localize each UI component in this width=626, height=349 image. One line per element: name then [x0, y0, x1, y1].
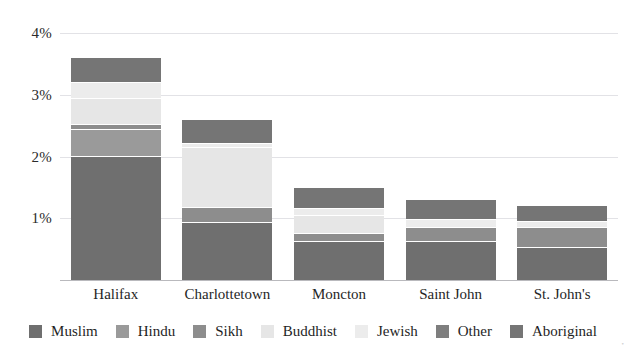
x-tick-label: Moncton [283, 287, 395, 302]
legend-swatch-icon [355, 325, 368, 338]
y-tick-label: 4% [6, 26, 52, 41]
bar-segment-buddhist[interactable] [71, 99, 161, 125]
bar-segment-muslim[interactable] [294, 242, 384, 280]
legend-swatch-icon [29, 325, 42, 338]
bar-segment-muslim[interactable] [71, 157, 161, 280]
corner-mark: • [622, 340, 624, 348]
legend-label: Muslim [51, 324, 98, 339]
bar-group[interactable] [182, 21, 272, 280]
bar-group[interactable] [294, 21, 384, 280]
stacked-bar[interactable] [182, 120, 272, 280]
bar-segment-buddhist[interactable] [294, 216, 384, 235]
x-axis-baseline [60, 280, 618, 281]
bar-segment-aboriginal[interactable] [71, 58, 161, 83]
legend-item-sikh[interactable]: Sikh [193, 324, 243, 339]
bar-segment-hindu[interactable] [71, 130, 161, 157]
bar-segment-sikh[interactable] [406, 228, 496, 242]
stacked-bar[interactable] [294, 188, 384, 281]
legend-item-hindu[interactable]: Hindu [116, 324, 176, 339]
bar-segment-muslim[interactable] [182, 223, 272, 280]
clipped-title [0, 0, 626, 5]
stacked-bar[interactable] [406, 200, 496, 280]
stacked-bar[interactable] [517, 206, 607, 280]
chart-legend: MuslimHinduSikhBuddhistJewishOtherAborig… [0, 313, 626, 349]
legend-label: Hindu [138, 324, 176, 339]
legend-swatch-icon [116, 325, 129, 338]
x-tick-label: Halifax [60, 287, 172, 302]
y-tick-label: 3% [6, 88, 52, 103]
legend-swatch-icon [261, 325, 274, 338]
x-tick-label: St. John's [506, 287, 618, 302]
x-tick-label: Saint John [395, 287, 507, 302]
stacked-bar-chart: 1%2%3%4% HalifaxCharlottetownMonctonSain… [0, 0, 626, 349]
bar-segment-jewish[interactable] [294, 209, 384, 216]
bar-segment-sikh[interactable] [182, 208, 272, 223]
bar-segment-sikh[interactable] [294, 234, 384, 241]
bar-segment-muslim[interactable] [406, 242, 496, 280]
stacked-bar[interactable] [71, 58, 161, 280]
legend-label: Buddhist [283, 324, 337, 339]
bar-segment-sikh[interactable] [517, 228, 607, 248]
legend-label: Other [458, 324, 492, 339]
legend-item-aboriginal[interactable]: Aboriginal [510, 324, 597, 339]
legend-item-other[interactable]: Other [436, 324, 492, 339]
x-tick-label: Charlottetown [172, 287, 284, 302]
legend-label: Jewish [377, 324, 418, 339]
bar-segment-aboriginal[interactable] [517, 206, 607, 222]
legend-item-muslim[interactable]: Muslim [29, 324, 98, 339]
bar-group[interactable] [71, 21, 161, 280]
legend-label: Aboriginal [532, 324, 597, 339]
legend-item-jewish[interactable]: Jewish [355, 324, 418, 339]
bar-segment-jewish[interactable] [406, 220, 496, 227]
bar-group[interactable] [517, 21, 607, 280]
bar-segment-aboriginal[interactable] [294, 188, 384, 210]
bar-segment-muslim[interactable] [517, 248, 607, 280]
legend-label: Sikh [215, 324, 243, 339]
bar-segment-jewish[interactable] [71, 83, 161, 98]
bar-segment-aboriginal[interactable] [406, 200, 496, 220]
bar-segment-buddhist[interactable] [182, 148, 272, 208]
y-tick-label: 2% [6, 149, 52, 164]
legend-swatch-icon [436, 325, 449, 338]
legend-item-buddhist[interactable]: Buddhist [261, 324, 337, 339]
bar-group[interactable] [406, 21, 496, 280]
legend-swatch-icon [193, 325, 206, 338]
plot-area [60, 21, 618, 280]
bar-segment-aboriginal[interactable] [182, 120, 272, 145]
legend-swatch-icon [510, 325, 523, 338]
y-tick-label: 1% [6, 211, 52, 226]
